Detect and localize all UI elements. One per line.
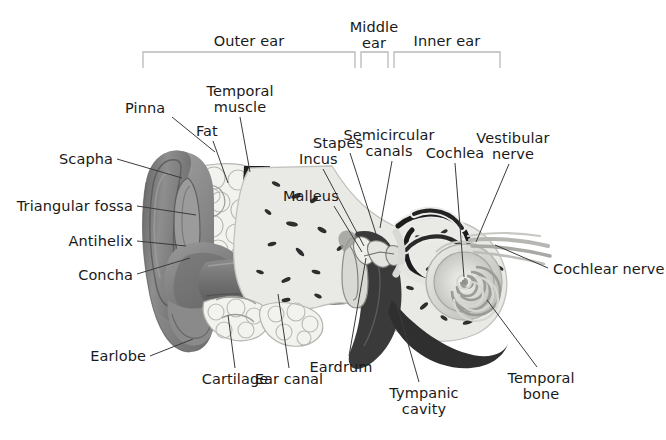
leader-vestibular-nerve bbox=[476, 164, 509, 242]
label-earlobe: Earlobe bbox=[0, 349, 146, 365]
bracket-outer-ear bbox=[143, 52, 355, 68]
leader-semicircular-canals bbox=[380, 161, 392, 228]
leader-temporal-muscle bbox=[240, 117, 250, 172]
label-temporal-bone: Temporal bone bbox=[441, 371, 641, 402]
ear-anatomy-figure: PinnaTemporal muscleFatScaphaTriangular … bbox=[0, 0, 666, 440]
region-brackets bbox=[143, 52, 500, 68]
label-temporal-muscle: Temporal muscle bbox=[140, 84, 340, 115]
label-vestibular-nerve: Vestibular nerve bbox=[413, 131, 613, 162]
label-fat: Fat bbox=[196, 124, 218, 140]
label-malleus: Malleus bbox=[283, 189, 339, 205]
label-triangular-fossa: Triangular fossa bbox=[0, 199, 133, 215]
label-eardrum: Eardrum bbox=[241, 360, 441, 376]
bracket-inner-ear bbox=[394, 52, 500, 68]
label-scapha: Scapha bbox=[0, 152, 113, 168]
bracket-label-inner-ear: Inner ear bbox=[357, 34, 537, 50]
label-antihelix: Antihelix bbox=[0, 234, 133, 250]
label-cochlear-nerve: Cochlear nerve bbox=[553, 262, 665, 278]
bracket-middle-ear bbox=[361, 52, 388, 68]
label-concha: Concha bbox=[0, 268, 133, 284]
